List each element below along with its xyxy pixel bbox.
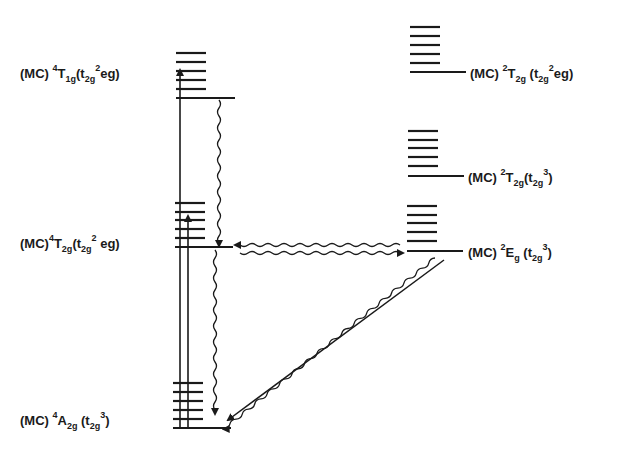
level-2Eg-manifold xyxy=(407,206,463,251)
label-2Eg: (MC) 2Eg (t2g3) xyxy=(468,243,552,263)
wavy-arrow-4T2g-to-4A2g xyxy=(214,250,217,414)
label-4A2g: (MC) 4A2g (t2g3) xyxy=(20,411,110,431)
label-2T2g-lower: (MC) 2T2g(t2g3) xyxy=(468,168,553,188)
level-2T2g-upper-manifold xyxy=(410,27,466,72)
wavy-arrow-4T2g-to-2Eg xyxy=(240,252,403,255)
label-4T2g: (MC)4T2g(t2g2 eg) xyxy=(20,234,120,254)
label-4T1g: (MC) 4T1g(t2g2eg) xyxy=(20,64,120,84)
wavy-arrow-2Eg-to-4T2g xyxy=(235,244,400,247)
wavy-arrow-2Eg-to-4A2g xyxy=(223,257,436,431)
label-2T2g-upper: (MC) 2T2g (t2g2eg) xyxy=(470,64,573,84)
level-4T1g-manifold xyxy=(176,53,235,98)
level-4A2g-manifold xyxy=(173,383,231,428)
emission-arrow-2Eg-to-4A2g xyxy=(228,260,444,420)
level-4T2g-manifold xyxy=(175,203,233,247)
level-2T2g-lower-manifold xyxy=(408,131,464,176)
wavy-arrow-4T1g-to-4T2g xyxy=(218,100,221,246)
